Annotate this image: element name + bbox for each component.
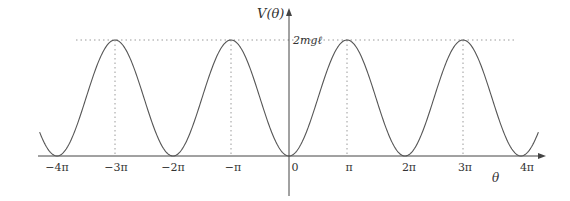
x-tick-label: π: [345, 161, 352, 174]
y-axis-arrow-icon: [286, 8, 292, 16]
x-tick-label: −2π: [161, 161, 184, 174]
x-tick-label: 3π: [458, 161, 472, 174]
x-tick-label: 4π: [520, 161, 534, 174]
x-tick-label: −π: [225, 161, 241, 174]
potential-chart: V(θ) 2mgℓ θ −4π −3π −2π −π 0 π 2π 3π 4π: [0, 0, 570, 201]
guide-lines: [76, 40, 516, 156]
x-tick-label: 0: [292, 161, 299, 174]
x-tick-labels: −4π −3π −2π −π 0 π 2π 3π 4π: [45, 161, 534, 174]
y-axis-label: V(θ): [257, 6, 284, 21]
x-axis-label: θ: [492, 171, 500, 185]
x-tick-label: 2π: [402, 161, 416, 174]
x-axis-arrow-icon: [538, 153, 546, 159]
y-max-label: 2mgℓ: [292, 34, 322, 47]
x-tick-label: −3π: [104, 161, 127, 174]
x-tick-label: −4π: [45, 161, 68, 174]
